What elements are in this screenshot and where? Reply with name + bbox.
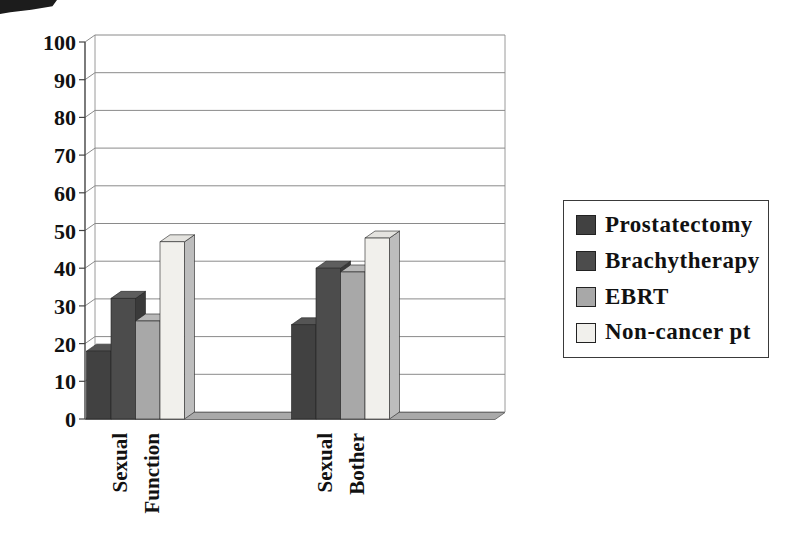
legend-label-non-cancer-pt: Non-cancer pt	[605, 318, 751, 347]
y-tick-label: 90	[54, 68, 76, 93]
y-tick-label: 20	[54, 332, 76, 357]
y-tick-label: 40	[54, 256, 76, 281]
bar-group-0	[87, 235, 195, 419]
y-tick-label: 50	[54, 219, 76, 244]
x-category-label-1: SexualBother	[313, 433, 369, 495]
legend-swatch-prostatectomy	[576, 215, 596, 235]
x-category-label-0: SexualFunction	[108, 433, 164, 514]
bar-group-1	[292, 231, 400, 419]
y-tick-label: 0	[65, 407, 76, 432]
legend-swatch-brachytherapy	[576, 251, 596, 271]
chart-figure: 0102030405060708090100SexualFunctionSexu…	[0, 0, 800, 556]
svg-text:Sexual: Sexual	[313, 433, 337, 493]
bar-non-cancer-pt-0	[160, 235, 195, 419]
svg-text:Bother: Bother	[345, 433, 369, 495]
y-axis-labels: 0102030405060708090100	[43, 30, 76, 432]
bar-non-cancer-pt-1	[365, 231, 400, 419]
legend-item-prostatectomy: Prostatectomy	[576, 211, 756, 240]
y-tick-label: 80	[54, 105, 76, 130]
svg-text:Sexual: Sexual	[108, 433, 132, 493]
chart-legend: Prostatectomy Brachytherapy EBRT Non-can…	[563, 200, 769, 358]
y-tick-label: 10	[54, 369, 76, 394]
legend-label-prostatectomy: Prostatectomy	[605, 211, 753, 240]
y-tick-label: 60	[54, 181, 76, 206]
legend-label-brachytherapy: Brachytherapy	[605, 247, 760, 276]
legend-item-non-cancer-pt: Non-cancer pt	[576, 318, 756, 347]
legend-item-ebrt: EBRT	[576, 283, 756, 312]
y-tick-label: 70	[54, 143, 76, 168]
svg-text:Function: Function	[140, 433, 164, 514]
y-tick-label: 100	[43, 30, 76, 55]
legend-item-brachytherapy: Brachytherapy	[576, 247, 756, 276]
legend-label-ebrt: EBRT	[605, 283, 669, 312]
y-tick-label: 30	[54, 294, 76, 319]
legend-swatch-non-cancer-pt	[576, 323, 596, 343]
legend-swatch-ebrt	[576, 287, 596, 307]
